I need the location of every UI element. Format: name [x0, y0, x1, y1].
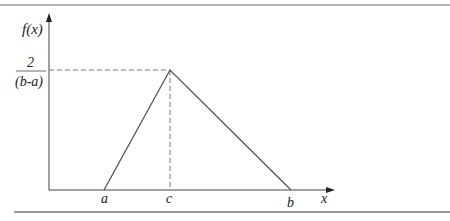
x-tick-a: a	[101, 191, 108, 206]
triangular-distribution-diagram: f(x) 2 (b-a) a c b x	[0, 0, 450, 221]
peak-value-denominator: (b-a)	[15, 74, 43, 90]
x-axis-label: x	[320, 191, 328, 206]
density-curve	[104, 70, 291, 190]
x-tick-c: c	[166, 191, 173, 206]
x-tick-b: b	[287, 195, 294, 210]
x-axis-arrow-icon	[326, 187, 335, 193]
peak-value-numerator: 2	[27, 55, 34, 70]
y-axis-arrow-icon	[46, 13, 52, 22]
y-axis-label: f(x)	[22, 21, 43, 38]
